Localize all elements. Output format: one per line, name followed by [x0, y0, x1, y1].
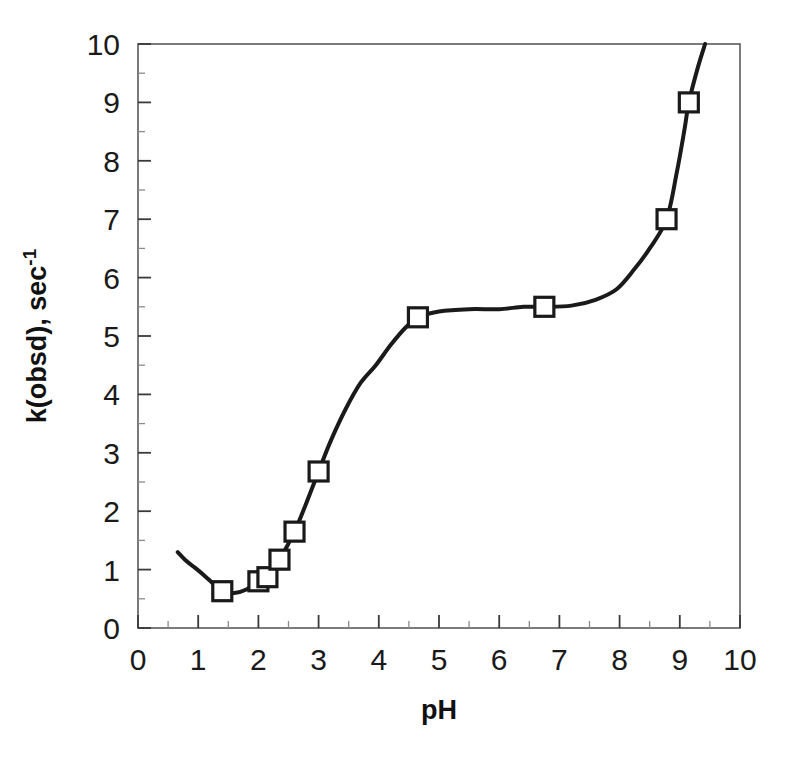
- x-tick-label: 0: [130, 643, 147, 676]
- x-tick-label: 8: [611, 643, 628, 676]
- y-tick-label: 2: [103, 495, 120, 528]
- y-tick-label: 10: [87, 28, 120, 61]
- data-point-marker: [270, 550, 289, 569]
- x-tick-label: 6: [491, 643, 508, 676]
- y-tick-label: 6: [103, 262, 120, 295]
- data-point-marker: [285, 522, 304, 541]
- x-tick-label: 10: [723, 643, 756, 676]
- plot-area-border: [138, 44, 740, 628]
- x-tick-label: 4: [370, 643, 387, 676]
- y-tick-label: 7: [103, 203, 120, 236]
- data-point-marker: [535, 297, 554, 316]
- chart-container: 012345678910 012345678910 pH k(obsd), se…: [0, 0, 793, 770]
- data-point-marker: [213, 582, 232, 601]
- plot-frame: [138, 44, 740, 628]
- y-axis-title-group: k(obsd), sec-1: [19, 248, 52, 423]
- data-point-marker: [408, 308, 427, 327]
- y-tick-label: 5: [103, 320, 120, 353]
- y-tick-label: 3: [103, 437, 120, 470]
- y-axis-title: k(obsd), sec-1: [19, 248, 52, 423]
- y-tick-label: 4: [103, 378, 120, 411]
- x-axis-tick-labels: 012345678910: [130, 643, 757, 676]
- y-tick-label: 9: [103, 86, 120, 119]
- y-tick-label: 0: [103, 612, 120, 645]
- data-point-marker: [657, 210, 676, 229]
- x-tick-label: 2: [250, 643, 267, 676]
- x-tick-label: 1: [190, 643, 207, 676]
- y-tick-label: 1: [103, 554, 120, 587]
- x-tick-label: 5: [431, 643, 448, 676]
- y-axis-tick-labels: 012345678910: [87, 28, 120, 645]
- data-point-marker: [679, 93, 698, 112]
- x-axis-title: pH: [421, 695, 457, 725]
- x-tick-label: 9: [671, 643, 688, 676]
- chart-plot: 012345678910 012345678910 pH k(obsd), se…: [0, 0, 793, 770]
- x-tick-label: 7: [551, 643, 568, 676]
- data-point-marker: [309, 462, 328, 481]
- x-tick-label: 3: [310, 643, 327, 676]
- y-tick-label: 8: [103, 145, 120, 178]
